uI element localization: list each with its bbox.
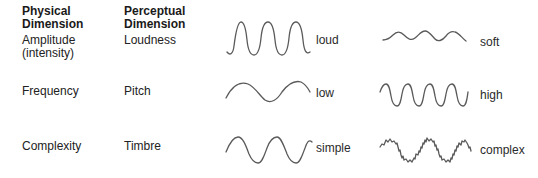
high-frequency-wave-icon [376, 80, 472, 110]
perceptual-dimension-timbre: Timbre [124, 140, 161, 153]
physical-dimension-complexity: Complexity [22, 140, 81, 153]
simple-wave-icon [222, 132, 314, 166]
low-frequency-wave-icon [222, 78, 312, 108]
physical-dimension-header: Physical Dimension [22, 5, 83, 31]
physical-dimension-amplitude: Amplitude (intensity) [22, 34, 75, 60]
complex-wave-icon [376, 133, 474, 167]
wave-label-high: high [480, 88, 503, 102]
physical-dimension-frequency: Frequency [22, 85, 79, 98]
soft-wave-icon [380, 28, 472, 48]
wave-label-low: low [316, 86, 334, 100]
perceptual-dimension-loudness: Loudness [124, 34, 176, 47]
wave-label-loud: loud [316, 33, 339, 47]
wave-label-complex: complex [480, 143, 525, 157]
loud-wave-icon [224, 18, 314, 58]
perceptual-dimension-pitch: Pitch [124, 85, 151, 98]
perceptual-dimension-header: Perceptual Dimension [124, 5, 185, 31]
wave-label-soft: soft [480, 35, 499, 49]
wave-label-simple: simple [316, 141, 351, 155]
